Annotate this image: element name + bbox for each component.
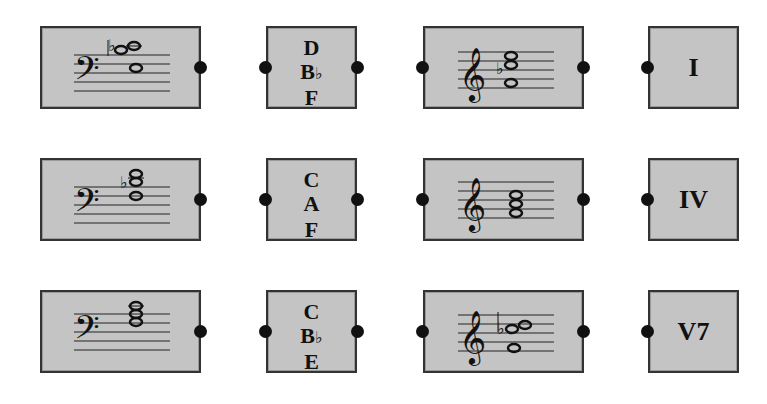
bass-staff-row3: 𝄢 bbox=[42, 292, 203, 375]
bass-clef-icon: 𝄢 bbox=[74, 181, 100, 227]
treble-clef-icon: 𝄞 bbox=[459, 177, 486, 233]
connector-dot[interactable] bbox=[577, 61, 590, 74]
treble-staff-box-row3: 𝄞 ♭ bbox=[423, 290, 584, 373]
note-head bbox=[115, 46, 127, 54]
note-names-box-row1: D B♭ F bbox=[266, 26, 357, 109]
connector-dot[interactable] bbox=[194, 61, 207, 74]
note-name-middle: B♭ bbox=[268, 324, 355, 350]
note-name-bottom: F bbox=[268, 86, 355, 110]
connector-dot[interactable] bbox=[416, 193, 429, 206]
treble-clef-icon: 𝄞 bbox=[459, 310, 486, 366]
roman-numeral-box-row2: IV bbox=[648, 158, 739, 241]
note-name-top: D bbox=[268, 36, 355, 60]
connector-dot[interactable] bbox=[351, 193, 364, 206]
roman-numeral: I bbox=[650, 28, 737, 107]
connector-dot[interactable] bbox=[416, 325, 429, 338]
connector-dot[interactable] bbox=[351, 325, 364, 338]
connector-dot[interactable] bbox=[416, 61, 429, 74]
connector-dot[interactable] bbox=[259, 61, 272, 74]
connector-dot[interactable] bbox=[194, 325, 207, 338]
flat-icon: ♭ bbox=[496, 60, 504, 77]
connector-dot[interactable] bbox=[641, 61, 654, 74]
treble-staff-row3: 𝄞 ♭ bbox=[425, 292, 586, 375]
note-head bbox=[130, 64, 142, 72]
note-name-top: C bbox=[268, 300, 355, 324]
connector-dot[interactable] bbox=[641, 325, 654, 338]
treble-staff-box-row1: 𝄞 ♭ bbox=[423, 26, 584, 109]
treble-staff-box-row2: 𝄞 bbox=[423, 158, 584, 241]
bass-clef-icon: 𝄢 bbox=[74, 308, 100, 354]
note-name-top: C bbox=[268, 168, 355, 192]
treble-staff-row1: 𝄞 ♭ bbox=[425, 28, 586, 111]
note-names-box-row2: C A F bbox=[266, 158, 357, 241]
note-name-bottom: E bbox=[268, 350, 355, 374]
roman-numeral-box-row1: I bbox=[648, 26, 739, 109]
connector-dot[interactable] bbox=[194, 193, 207, 206]
bass-staff-row2: 𝄢 ♭ bbox=[42, 160, 203, 243]
bass-staff-box-row1: 𝄢 ♭ bbox=[40, 26, 201, 109]
note-name-bottom: F bbox=[268, 218, 355, 242]
flat-icon: ♭ bbox=[120, 174, 128, 191]
roman-numeral: IV bbox=[650, 160, 737, 239]
note-name-middle: B♭ bbox=[268, 60, 355, 86]
note-name-middle: A bbox=[268, 192, 355, 218]
bass-staff-box-row3: 𝄢 bbox=[40, 290, 201, 373]
connector-dot[interactable] bbox=[259, 193, 272, 206]
bass-staff-row1: 𝄢 ♭ bbox=[42, 28, 203, 111]
bass-clef-icon: 𝄢 bbox=[74, 49, 100, 95]
roman-numeral-box-row3: V7 bbox=[648, 290, 739, 373]
treble-staff-row2: 𝄞 bbox=[425, 160, 586, 243]
note-names-box-row3: C B♭ E bbox=[266, 290, 357, 373]
connector-dot[interactable] bbox=[577, 193, 590, 206]
roman-numeral: V7 bbox=[650, 292, 737, 371]
treble-clef-icon: 𝄞 bbox=[459, 47, 486, 103]
connector-dot[interactable] bbox=[577, 325, 590, 338]
connector-dot[interactable] bbox=[351, 61, 364, 74]
connector-dot[interactable] bbox=[641, 193, 654, 206]
connector-dot[interactable] bbox=[259, 325, 272, 338]
bass-staff-box-row2: 𝄢 ♭ bbox=[40, 158, 201, 241]
